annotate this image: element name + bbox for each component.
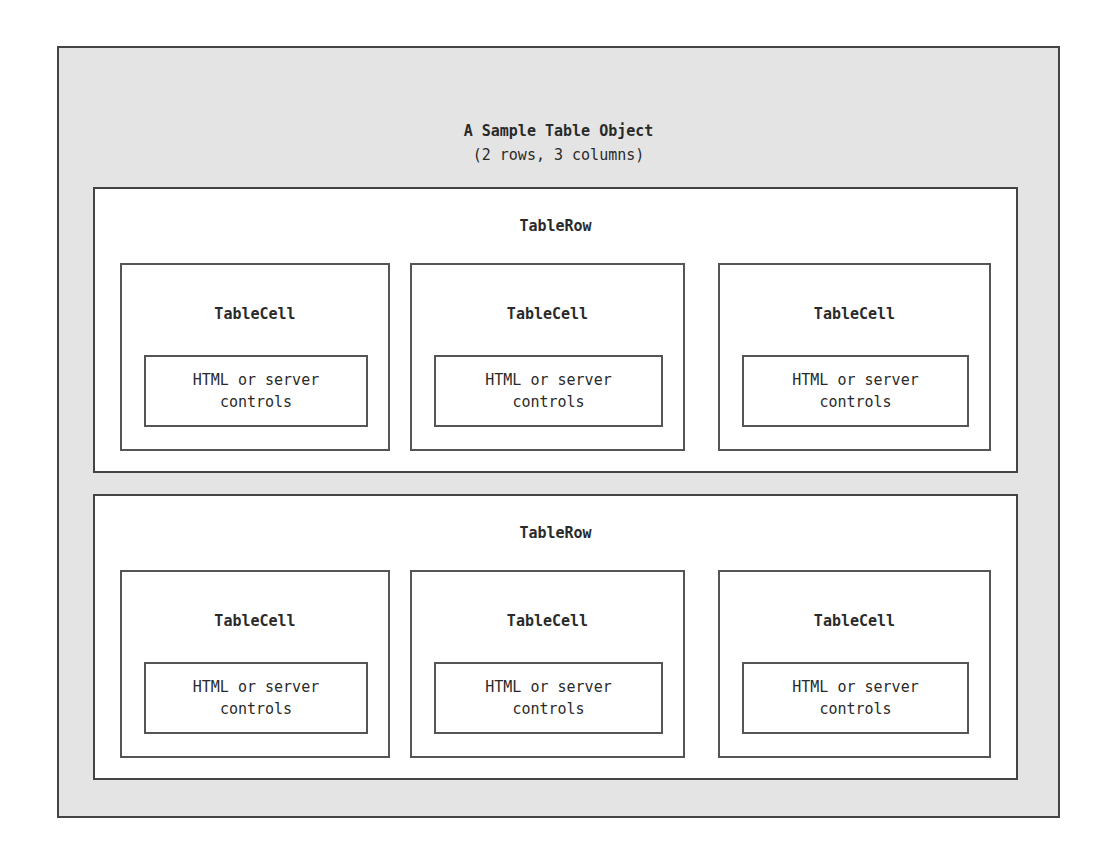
diagram-title: A Sample Table Object (2 rows, 3 columns… xyxy=(59,119,1058,167)
cell-label: TableCell xyxy=(412,305,683,323)
row-label: TableRow xyxy=(95,217,1016,235)
table-cell: TableCell HTML or server controls xyxy=(718,570,991,758)
subtitle-text: (2 rows, 3 columns) xyxy=(473,146,645,164)
row-label: TableRow xyxy=(95,524,1016,542)
table-row-2: TableRow TableCell HTML or server contro… xyxy=(93,494,1018,780)
table-row-1: TableRow TableCell HTML or server contro… xyxy=(93,187,1018,473)
cell-content-box: HTML or server controls xyxy=(144,662,368,734)
title-text: A Sample Table Object xyxy=(464,122,654,140)
cell-label: TableCell xyxy=(720,305,989,323)
table-cell: TableCell HTML or server controls xyxy=(718,263,991,451)
cell-label: TableCell xyxy=(122,305,388,323)
table-cell: TableCell HTML or server controls xyxy=(120,263,390,451)
table-object: A Sample Table Object (2 rows, 3 columns… xyxy=(57,46,1060,818)
cell-content-box: HTML or server controls xyxy=(434,662,663,734)
table-cell: TableCell HTML or server controls xyxy=(410,570,685,758)
cell-content-box: HTML or server controls xyxy=(434,355,663,427)
cell-label: TableCell xyxy=(720,612,989,630)
table-cell: TableCell HTML or server controls xyxy=(410,263,685,451)
table-cell: TableCell HTML or server controls xyxy=(120,570,390,758)
cell-content-box: HTML or server controls xyxy=(742,355,969,427)
cell-label: TableCell xyxy=(412,612,683,630)
cell-label: TableCell xyxy=(122,612,388,630)
cell-content-box: HTML or server controls xyxy=(144,355,368,427)
cell-content-box: HTML or server controls xyxy=(742,662,969,734)
